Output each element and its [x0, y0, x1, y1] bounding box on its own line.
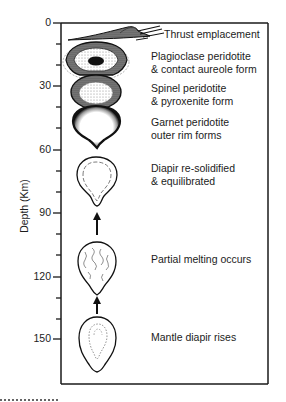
stage-label-partial-melting-line1: Partial melting occurs: [151, 253, 251, 266]
upward-arrow-icon: [93, 212, 101, 235]
stage-label-garnet-line1: Garnet peridotite: [151, 116, 229, 129]
upward-arrow-icon: [93, 296, 101, 314]
stage-label-garnet-line2: outer rim forms: [151, 129, 229, 142]
y-axis-ticks: [53, 23, 61, 339]
stage-label-plagioclase: Plagioclase peridotite & contact aureole…: [151, 50, 257, 75]
stage-label-garnet: Garnet peridotite outer rim forms: [151, 116, 229, 141]
tick-label-0: 0: [25, 16, 51, 28]
mantle-diapir-shape: [79, 317, 116, 372]
stage-label-spinel-line2: & pyroxenite form: [151, 95, 233, 108]
stage-label-partial-melting: Partial melting occurs: [151, 253, 251, 266]
stage-label-spinel: Spinel peridotite & pyroxenite form: [151, 82, 233, 107]
tick-label-120: 120: [25, 270, 51, 282]
stage-label-resolidified-line1: Diapir re-solidified: [151, 162, 235, 175]
tick-label-60: 60: [25, 143, 51, 155]
stage-label-resolidified: Diapir re-solidified & equilibrated: [151, 162, 235, 187]
resolidified-diapir-shape: [77, 157, 117, 206]
stage-label-spinel-line1: Spinel peridotite: [151, 82, 233, 95]
stage-label-rises: Mantle diapir rises: [151, 331, 236, 344]
stage-label-plagioclase-line1: Plagioclase peridotite: [151, 50, 257, 63]
y-axis-title: Depth (Km): [18, 176, 30, 236]
partial-melting-diapir-shape: [78, 242, 116, 295]
garnet-diapir-shape: [73, 106, 120, 148]
tick-label-30: 30: [25, 79, 51, 91]
stage-label-plagioclase-line2: & contact aureole form: [151, 63, 257, 76]
stage-label-thrust-line1: Thrust emplacement: [164, 28, 260, 41]
stage-label-resolidified-line2: & equilibrated: [151, 175, 235, 188]
stage-label-thrust: Thrust emplacement: [164, 28, 260, 41]
thrust-wedge-shape: [68, 26, 164, 40]
tick-label-150: 150: [25, 332, 51, 344]
stage-label-rises-line1: Mantle diapir rises: [151, 331, 236, 344]
spinel-diapir-shape: [71, 75, 121, 109]
